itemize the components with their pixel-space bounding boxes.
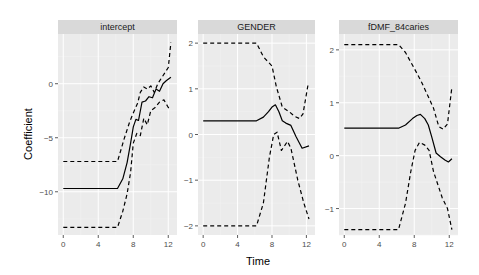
y-tick-label: 2 [189,39,194,48]
y-tick-label: −1 [325,205,335,214]
x-tick-label: 8 [270,240,275,249]
facet-strip-label: GENDER [237,22,276,32]
y-tick-label: 2 [330,46,335,55]
facet-panel-intercept: intercept048120−5−10 [39,20,177,249]
y-tick-label: −1 [184,176,194,185]
x-tick-label: 4 [96,240,101,249]
facet-strip-label: fDMF_84caries [368,22,430,32]
x-tick-label: 0 [342,240,347,249]
y-tick-label: −5 [44,134,54,143]
y-tick-label: 0 [49,80,54,89]
facet-panels: intercept048120−5−10GENDER04812210−1−2fD… [39,20,458,249]
faceted-coefficient-chart: intercept048120−5−10GENDER04812210−1−2fD… [0,0,479,275]
x-tick-label: 0 [61,240,66,249]
x-tick-label: 8 [131,240,136,249]
x-tick-label: 0 [201,240,206,249]
y-tick-label: 1 [330,99,335,108]
x-tick-label: 4 [377,240,382,249]
plot-background [58,34,177,235]
y-tick-label: 1 [189,85,194,94]
y-tick-label: 0 [330,152,335,161]
x-tick-label: 4 [235,240,240,249]
y-axis-title: Coefficient [22,108,34,160]
x-axis-title: Time [246,255,270,267]
y-tick-label: −2 [184,222,194,231]
facet-panel-gender: GENDER04812210−1−2 [184,20,315,249]
x-tick-label: 8 [412,240,417,249]
x-tick-label: 12 [445,240,454,249]
plot-background [339,34,458,235]
facet-strip-label: intercept [100,22,135,32]
x-tick-label: 12 [164,240,173,249]
y-tick-label: −10 [39,188,53,197]
facet-panel-fdmf-84caries: fDMF_84caries04812210−1 [325,20,458,249]
x-tick-label: 12 [302,240,311,249]
y-tick-label: 0 [189,131,194,140]
